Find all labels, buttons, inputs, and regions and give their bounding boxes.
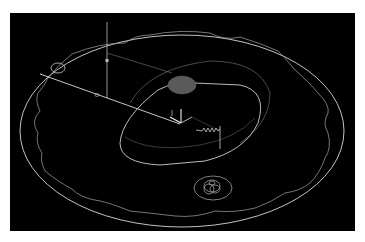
cad-drawing-viewport[interactable] — [10, 13, 355, 231]
slot-inner-line — [125, 118, 255, 148]
wireframe-canvas[interactable] — [10, 13, 355, 231]
center-slot — [120, 83, 261, 165]
small-circle-left — [51, 63, 65, 73]
diagonal-radius-line — [40, 74, 180, 124]
ucs-axis-icon[interactable] — [170, 109, 192, 123]
spring-symbol — [196, 128, 220, 132]
scalloped-gear-profile — [34, 31, 329, 216]
outer-ellipse — [20, 35, 344, 227]
gray-disc — [168, 76, 196, 94]
leader-line — [107, 53, 172, 73]
grip-square-icon — [106, 59, 109, 62]
concentric-circles-bottom — [194, 176, 232, 200]
